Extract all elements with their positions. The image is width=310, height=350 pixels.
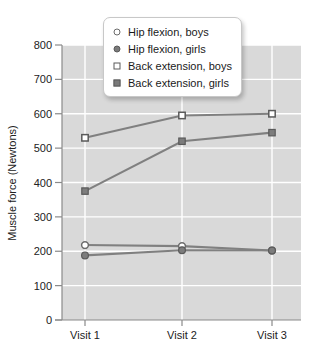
y-axis-tick-label: 600 [34, 108, 52, 120]
filled-circle-marker-icon [111, 43, 123, 55]
legend-item-back-extension-girls: Back extension, girls [111, 74, 232, 91]
legend-item-label: Hip flexion, girls [128, 43, 206, 55]
data-point-marker [179, 247, 186, 254]
x-axis-tick-label: Visit 1 [70, 329, 100, 341]
data-point-marker [82, 242, 89, 249]
legend-item-label: Back extension, boys [128, 60, 232, 72]
y-axis-tick-label: 700 [34, 73, 52, 85]
y-axis-tick-label: 800 [34, 39, 52, 51]
open-circle-marker-icon [111, 26, 123, 38]
y-axis-tick-label: 300 [34, 211, 52, 223]
legend-item-label: Back extension, girls [128, 77, 229, 89]
x-axis-ticks: Visit 1Visit 2Visit 3 [70, 320, 287, 341]
data-point-marker [269, 111, 275, 117]
y-axis-tick-label: 500 [34, 142, 52, 154]
y-axis-tick-label: 400 [34, 177, 52, 189]
chart-figure: 8007006005004003002001000 Visit 1Visit 2… [0, 0, 310, 350]
x-axis-tick-label: Visit 2 [167, 329, 197, 341]
legend-item-label: Hip flexion, boys [128, 26, 209, 38]
data-point-marker [269, 129, 275, 135]
data-point-marker [179, 138, 185, 144]
data-point-marker [179, 112, 185, 118]
filled-square-marker-icon [111, 77, 123, 89]
y-axis-tick-label: 200 [34, 245, 52, 257]
y-axis-tick-label: 0 [46, 314, 52, 326]
y-axis-ticks: 8007006005004003002001000 [34, 39, 62, 326]
legend-item-hip-flexion-boys: Hip flexion, boys [111, 23, 232, 40]
data-point-marker [82, 135, 88, 141]
chart-legend: Hip flexion, boys Hip flexion, girls Bac… [103, 17, 242, 97]
data-point-marker [82, 252, 89, 259]
y-axis-tick-label: 100 [34, 280, 52, 292]
x-axis-tick-label: Visit 3 [257, 329, 287, 341]
open-square-marker-icon [111, 60, 123, 72]
y-axis-title: Muscle force (Newtons) [6, 125, 18, 241]
legend-item-hip-flexion-girls: Hip flexion, girls [111, 40, 232, 57]
data-point-marker [269, 247, 276, 254]
legend-item-back-extension-boys: Back extension, boys [111, 57, 232, 74]
data-point-marker [82, 188, 88, 194]
